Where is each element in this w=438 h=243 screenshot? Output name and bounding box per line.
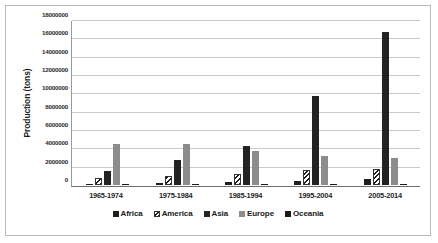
y-tick-label: 0 — [65, 176, 68, 183]
legend-item-europe[interactable]: Europe — [239, 209, 274, 218]
legend-swatch-europe-icon — [239, 211, 245, 217]
bar-america-2005-2014[interactable] — [373, 169, 380, 185]
bar-group-1985-1994 — [212, 21, 281, 185]
bar-asia-1965-1974[interactable] — [104, 171, 111, 185]
y-tick-label: 2000000 — [45, 157, 68, 164]
y-tick-label: 4000000 — [45, 139, 68, 146]
bar-asia-1975-1984[interactable] — [174, 160, 181, 185]
bar-america-1995-2004[interactable] — [303, 170, 310, 185]
bar-europe-1965-1974[interactable] — [113, 144, 120, 185]
legend-swatch-asia-icon — [204, 211, 210, 217]
bar-europe-1995-2004[interactable] — [321, 156, 328, 185]
bar-oceania-1995-2004[interactable] — [330, 184, 337, 185]
x-tick-label-1975-1984: 1975-1984 — [141, 191, 211, 200]
legend-label-oceania: Oceania — [293, 209, 323, 218]
gridline — [72, 185, 420, 186]
bar-asia-2005-2014[interactable] — [382, 32, 389, 185]
bar-africa-1985-1994[interactable] — [225, 182, 232, 185]
y-tick-label: 6000000 — [45, 121, 68, 128]
bar-africa-1975-1984[interactable] — [156, 183, 163, 185]
bar-europe-1975-1984[interactable] — [183, 144, 190, 185]
bar-oceania-1985-1994[interactable] — [261, 184, 268, 185]
bar-oceania-1975-1984[interactable] — [192, 184, 199, 185]
legend-item-africa[interactable]: Africa — [113, 209, 143, 218]
legend-item-america[interactable]: America — [154, 209, 193, 218]
bar-group-1995-2004 — [281, 21, 350, 185]
legend-swatch-oceania-icon — [285, 211, 291, 217]
legend-swatch-america-icon — [154, 211, 160, 217]
x-tick-label-1985-1994: 1985-1994 — [211, 191, 281, 200]
bar-africa-1965-1974[interactable] — [86, 184, 93, 185]
y-tick-label: 8000000 — [45, 102, 68, 109]
bar-oceania-2005-2014[interactable] — [400, 184, 407, 185]
x-tick-label-1965-1974: 1965-1974 — [71, 191, 141, 200]
bar-group-1965-1974 — [73, 21, 142, 185]
bar-america-1965-1974[interactable] — [95, 178, 102, 185]
chart-container: Production (tons) 0200000040000006000000… — [5, 5, 431, 236]
legend-label-europe: Europe — [247, 209, 274, 218]
legend-swatch-africa-icon — [113, 211, 119, 217]
plot-area: 0200000040000006000000800000010000000120… — [71, 21, 420, 187]
x-tick-label-1995-2004: 1995-2004 — [280, 191, 350, 200]
bar-group-2005-2014 — [351, 21, 420, 185]
y-axis-title: Production (tons) — [22, 38, 32, 168]
legend-item-oceania[interactable]: Oceania — [285, 209, 323, 218]
y-tick-label: 18000000 — [42, 11, 68, 18]
bar-groups — [73, 21, 420, 185]
bar-asia-1985-1994[interactable] — [243, 146, 250, 185]
bar-europe-1985-1994[interactable] — [252, 151, 259, 185]
bar-oceania-1965-1974[interactable] — [122, 184, 129, 185]
x-tick-label-2005-2014: 2005-2014 — [350, 191, 420, 200]
legend-item-asia[interactable]: Asia — [204, 209, 229, 218]
bar-asia-1995-2004[interactable] — [312, 96, 319, 185]
y-tick-label: 12000000 — [42, 66, 68, 73]
bar-america-1985-1994[interactable] — [234, 174, 241, 185]
y-tick-label: 16000000 — [42, 29, 68, 36]
legend-label-america: America — [162, 209, 193, 218]
legend-label-africa: Africa — [121, 209, 143, 218]
bar-africa-2005-2014[interactable] — [364, 179, 371, 185]
legend-label-asia: Asia — [212, 209, 229, 218]
bar-america-1975-1984[interactable] — [165, 176, 172, 185]
y-tick-label: 10000000 — [42, 84, 68, 91]
y-tick-label: 14000000 — [42, 47, 68, 54]
bar-europe-2005-2014[interactable] — [391, 158, 398, 185]
chart-legend: AfricaAmericaAsiaEuropeOceania — [6, 209, 430, 218]
bar-africa-1995-2004[interactable] — [294, 181, 301, 185]
x-axis-tick-labels: 1965-19741975-19841985-19941995-20042005… — [71, 191, 420, 200]
bar-group-1975-1984 — [142, 21, 211, 185]
